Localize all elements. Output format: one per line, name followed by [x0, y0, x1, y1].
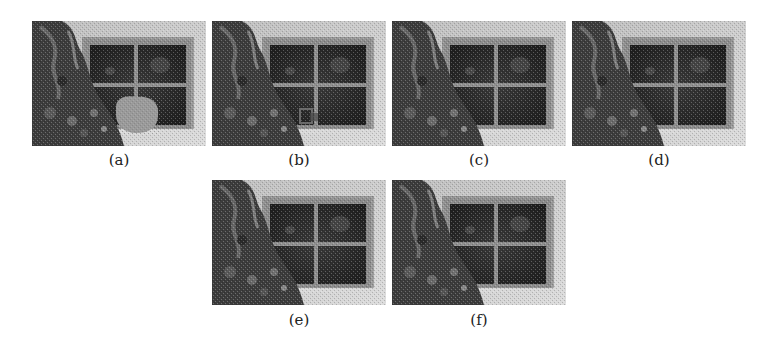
panel-b-image [212, 21, 386, 146]
panel-f-image [392, 180, 566, 305]
window-photo-result-c [392, 21, 566, 146]
panel-d-image [572, 21, 746, 146]
window-photo-result-b [212, 21, 386, 146]
panel-d-label: (d) [572, 151, 746, 169]
window-photo-result-e [212, 180, 386, 305]
panel-e-label: (e) [212, 311, 386, 329]
panel-f-label: (f) [392, 311, 566, 329]
window-photo-masked [32, 21, 206, 146]
panel-e-image [212, 180, 386, 305]
panel-a-image [32, 21, 206, 146]
window-photo-result-d [572, 21, 746, 146]
panel-c-label: (c) [392, 151, 566, 169]
panel-b-label: (b) [212, 151, 386, 169]
panel-a-label: (a) [32, 151, 206, 169]
window-photo-result-f [392, 180, 566, 305]
panel-c-image [392, 21, 566, 146]
